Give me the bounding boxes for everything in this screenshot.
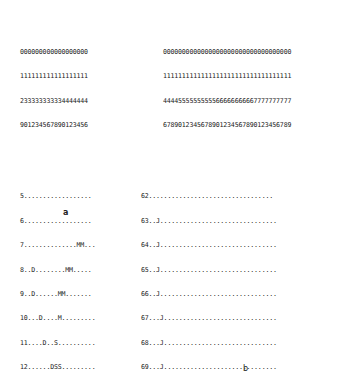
header-line: 1111111111111111111111111111111111 <box>163 72 291 80</box>
header-line: 6789012345678901234567890123456789 <box>163 121 291 129</box>
grid-rows-a: 5.................. 6.................. … <box>20 176 95 382</box>
grid-row: 7..............MM... <box>20 241 95 249</box>
column-header-b: 0000000000000000000000000000000000 11111… <box>163 31 291 145</box>
header-line: 233333333334444444 <box>20 97 95 105</box>
header-line: 4444555555555566666666667777777777 <box>163 97 291 105</box>
header-line: 111111111111111111 <box>20 72 95 80</box>
header-line: 901234567890123456 <box>20 121 95 129</box>
grid-row: 5.................. <box>20 192 95 200</box>
grid-row: 69...J.............................. <box>141 363 291 371</box>
header-line: 0000000000000000000000000000000000 <box>163 48 291 56</box>
panel-label-b: b <box>243 364 248 373</box>
grid-row: 8..D........MM..... <box>20 266 95 274</box>
grid-row: 9..D......MM....... <box>20 290 95 298</box>
grid-row: 64..J............................... <box>141 241 291 249</box>
grid-row: 12......DSS......... <box>20 363 95 371</box>
grid-rows-b: 62................................. 63..… <box>141 176 291 382</box>
grid-row: 10...D....M......... <box>20 314 95 322</box>
grid-row: 65..J............................... <box>141 266 291 274</box>
column-header-a: 000000000000000000 111111111111111111 23… <box>20 31 95 145</box>
panel-label-a: a <box>63 208 68 217</box>
grid-row: 63..J............................... <box>141 217 291 225</box>
header-line: 000000000000000000 <box>20 48 95 56</box>
grid-row: 66..J............................... <box>141 290 291 298</box>
figure-panel-a: 000000000000000000 111111111111111111 23… <box>20 15 95 382</box>
grid-row: 67...J.............................. <box>141 314 291 322</box>
grid-row: 68...J.............................. <box>141 339 291 347</box>
grid-row: 62................................. <box>141 192 291 200</box>
grid-row: 11....D..S.......... <box>20 339 95 347</box>
figure-panel-b: 0000000000000000000000000000000000 11111… <box>163 15 291 382</box>
grid-row: 6.................. <box>20 217 95 225</box>
